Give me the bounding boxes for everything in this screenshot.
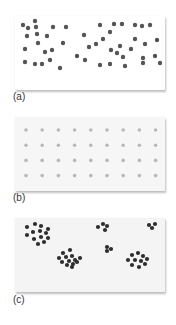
dot — [60, 260, 64, 264]
dot — [121, 143, 125, 147]
dot — [24, 174, 28, 178]
dot — [115, 51, 119, 55]
random-dots — [15, 16, 165, 90]
dot — [64, 25, 68, 29]
dot — [58, 66, 62, 70]
dot — [89, 128, 93, 132]
dot — [38, 229, 42, 233]
dot — [73, 128, 77, 132]
dot — [133, 37, 137, 41]
dot — [40, 62, 44, 66]
dot — [140, 24, 144, 28]
dot — [145, 257, 149, 261]
dot — [108, 30, 112, 34]
panel-uniform — [15, 117, 165, 191]
dot — [96, 225, 100, 229]
dot — [98, 63, 102, 67]
dot — [101, 37, 105, 41]
dot — [141, 56, 145, 60]
dot — [139, 259, 143, 263]
dot — [130, 263, 134, 267]
dot — [120, 22, 124, 26]
dot — [133, 258, 137, 262]
dot — [94, 42, 98, 46]
dot — [87, 45, 91, 49]
dot — [101, 222, 105, 226]
dot — [105, 128, 109, 132]
dot — [112, 22, 116, 26]
panel-random — [15, 16, 165, 90]
dot — [105, 174, 109, 178]
dot — [123, 64, 127, 68]
dot — [48, 58, 52, 62]
dot — [70, 265, 74, 269]
dot — [138, 128, 142, 132]
dot — [75, 260, 79, 264]
dot — [109, 247, 113, 251]
dot — [133, 23, 137, 27]
dot — [57, 159, 61, 163]
dot — [73, 143, 77, 147]
dot — [89, 159, 93, 163]
dot — [46, 236, 50, 240]
dot — [118, 44, 122, 48]
dot — [33, 19, 37, 23]
dot — [32, 237, 36, 241]
dot — [143, 42, 147, 46]
dot — [108, 62, 112, 66]
dot — [138, 159, 142, 163]
panel-label-a: (a) — [13, 91, 25, 102]
dot — [57, 256, 61, 260]
panel-label-b: (b) — [13, 192, 25, 203]
dot — [148, 23, 152, 27]
dot — [73, 174, 77, 178]
dot — [25, 225, 29, 229]
dot — [33, 62, 37, 66]
dot — [40, 143, 44, 147]
dot — [25, 34, 29, 38]
dot — [21, 23, 25, 27]
clustered-dots — [15, 218, 165, 292]
dot — [67, 259, 71, 263]
dot — [154, 143, 158, 147]
dot — [121, 55, 125, 59]
dot — [129, 47, 133, 51]
dot — [105, 159, 109, 163]
dot — [105, 249, 109, 253]
dot — [105, 143, 109, 147]
dot — [24, 159, 28, 163]
dot — [23, 60, 27, 64]
dot — [121, 128, 125, 132]
dot — [158, 61, 162, 65]
dot — [141, 254, 145, 258]
dot — [23, 47, 27, 51]
dot — [73, 159, 77, 163]
dot — [43, 50, 47, 54]
dot — [130, 253, 134, 257]
dot — [138, 143, 142, 147]
dot — [121, 159, 125, 163]
dot — [65, 263, 69, 267]
dot — [36, 41, 40, 45]
dot — [70, 254, 74, 258]
dot — [141, 61, 145, 65]
dot — [153, 54, 157, 58]
dot — [39, 224, 43, 228]
dot — [83, 58, 87, 62]
dot — [57, 128, 61, 132]
dot — [25, 233, 29, 237]
dot — [51, 25, 55, 29]
dot — [24, 128, 28, 132]
dot — [40, 128, 44, 132]
dot — [40, 159, 44, 163]
dot — [154, 159, 158, 163]
dot — [46, 227, 50, 231]
dot — [121, 174, 125, 178]
dot — [98, 23, 102, 27]
dot — [68, 248, 72, 252]
dot — [57, 174, 61, 178]
dot — [150, 226, 154, 230]
dot — [26, 26, 30, 30]
dot — [126, 258, 130, 262]
panel-clustered — [15, 218, 165, 292]
